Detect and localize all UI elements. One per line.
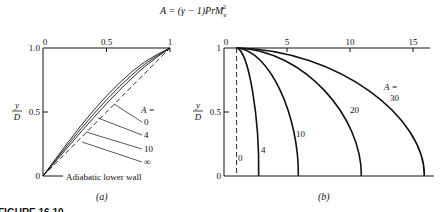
y-label-numerator: y (14, 100, 19, 110)
annotation-adiabatic: Adiabatic lower wall (66, 172, 142, 182)
legend-leader (114, 104, 142, 122)
y-tick-label: 0 (36, 171, 41, 181)
x-tick-label: 10 (346, 37, 356, 47)
legend-title: A = (140, 105, 155, 115)
figure-canvas: A = (γ − 1)PrMe2 00.5100.51.0yDA =0410∞A… (0, 0, 442, 212)
curve-label-10: 10 (296, 129, 306, 139)
y-label-denominator: D (194, 112, 202, 122)
series-line-30 (237, 48, 425, 176)
x-tick-label: 0 (224, 37, 229, 47)
curve-label-30: 30 (390, 93, 400, 103)
y-tick-label: 0 (217, 171, 222, 181)
legend-label: ∞ (144, 157, 150, 167)
panel-a-label: (a) (96, 191, 108, 203)
legend-title: A = (383, 82, 398, 92)
formula-pr: Pr (204, 5, 215, 16)
panel-b: 05101500.51yDA =30201040 (193, 37, 434, 181)
x-tick-label: 15 (409, 37, 419, 47)
series-line-10 (237, 48, 299, 176)
y-tick-label: 1.0 (29, 43, 41, 53)
panel-b-label: (b) (318, 191, 330, 203)
legend-label: 10 (144, 144, 154, 154)
y-tick-label: 0.5 (210, 107, 222, 117)
x-tick-label: 1 (168, 37, 173, 47)
formula-sup: 2 (222, 3, 226, 11)
x-tick-label: 5 (285, 37, 290, 47)
curve-label-20: 20 (350, 105, 360, 115)
legend-leader (82, 142, 142, 162)
curve-label-0: 0 (238, 153, 243, 163)
y-label-denominator: D (13, 112, 21, 122)
formula-lhs: A = (γ − 1) (159, 5, 206, 17)
formula: A = (γ − 1)PrMe2 (159, 3, 226, 19)
formula-sub: e (223, 11, 226, 19)
legend-label: 4 (144, 130, 149, 140)
y-tick-label: 0.5 (29, 107, 41, 117)
curve-label-4: 4 (261, 145, 266, 155)
panel-a: 00.5100.51.0yDA =0410∞Adiabatic lower wa… (12, 37, 172, 182)
x-tick-label: 0.5 (101, 37, 113, 47)
y-label-numerator: y (195, 100, 200, 110)
legend-leader (98, 118, 142, 135)
y-tick-label: 1 (217, 43, 222, 53)
x-tick-label: 0 (43, 37, 48, 47)
figure-caption: FIGURE 16.10 (0, 207, 64, 212)
legend-label: 0 (144, 117, 149, 127)
